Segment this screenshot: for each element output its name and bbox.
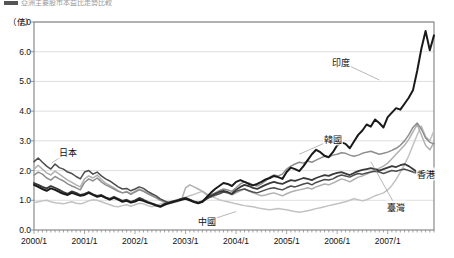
cut-title-text: 亞洲主要股市本益比走勢比較 — [21, 0, 112, 6]
x-axis-tick-label: 2005/1 — [274, 236, 300, 246]
x-axis-tick-label: 2002/1 — [122, 236, 148, 246]
plot-canvas — [0, 0, 454, 258]
y-axis-tick-label: 5.0 — [5, 76, 31, 86]
y-axis-tick-label: 4.0 — [5, 106, 31, 116]
y-axis-tick-label: 1.0 — [5, 195, 31, 205]
y-axis-tick-label: 6.0 — [5, 47, 31, 57]
pe-ratio-line-chart: 亞洲主要股市本益比走勢比較 （倍） 0.01.02.03.04.05.06.07… — [0, 0, 454, 258]
y-axis-tick-label: 3.0 — [5, 136, 31, 146]
series-annotation-label: 印度 — [331, 56, 351, 69]
series-annotation-label: 香港 — [416, 167, 436, 180]
series-annotation-label: 中國 — [197, 215, 217, 228]
x-axis-tick-label: 2000/1 — [21, 236, 47, 246]
x-axis-tick-label: 2004/1 — [223, 236, 249, 246]
plot-background — [34, 22, 434, 230]
series-annotation-label: 臺灣 — [386, 200, 406, 213]
x-axis-tick-label: 2006/1 — [324, 236, 350, 246]
series-annotation-label: 韓國 — [323, 133, 343, 146]
y-axis-tick-label: 0.0 — [5, 225, 31, 235]
x-axis-tick-label: 2007/1 — [375, 236, 401, 246]
y-axis-tick-label: 7.0 — [5, 17, 31, 27]
x-axis-tick-label: 2003/1 — [173, 236, 199, 246]
y-axis-tick-labels: 0.01.02.03.04.05.06.07.0 — [0, 0, 31, 258]
y-axis-tick-label: 2.0 — [5, 166, 31, 176]
cut-off-title: 亞洲主要股市本益比走勢比較 — [4, 0, 304, 6]
series-annotation-label: 日本 — [58, 146, 78, 159]
x-axis-tick-label: 2001/1 — [72, 236, 98, 246]
